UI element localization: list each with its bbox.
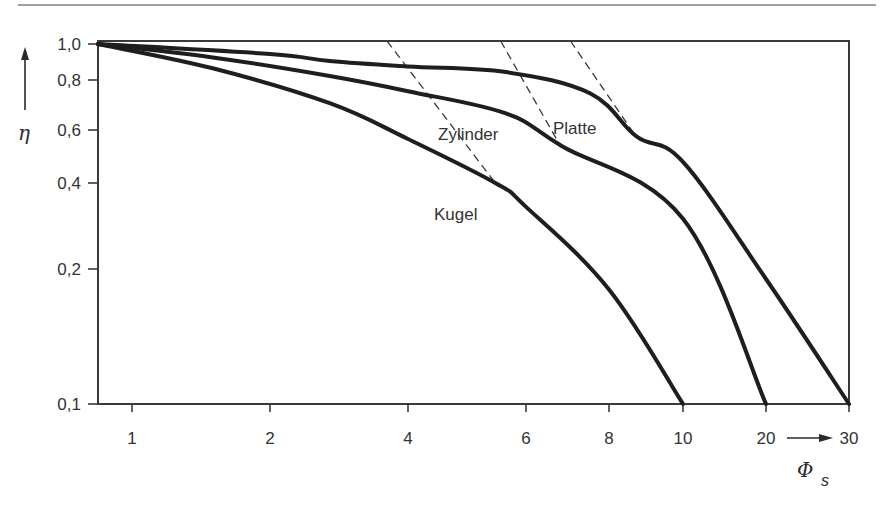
x-axis-label-subscript: s (821, 472, 829, 489)
curves (98, 44, 849, 404)
label-kugel: Kugel (434, 205, 477, 224)
y-axis-arrow-icon (21, 47, 29, 110)
curve-zylinder (98, 44, 766, 404)
y-tick-label: 1,0 (57, 35, 81, 54)
x-tick-label: 20 (757, 429, 776, 448)
y-tick-label: 0,4 (57, 174, 81, 193)
y-axis-ticks: 1,00,80,60,40,20,1 (57, 35, 98, 414)
chart: 1,00,80,60,40,20,1 12468102030 Zylinder … (0, 0, 882, 513)
x-tick-label: 10 (674, 429, 693, 448)
y-tick-label: 0,6 (57, 121, 81, 140)
label-platte: Platte (553, 119, 596, 138)
x-axis-label: Φ (797, 458, 813, 482)
x-tick-label: 8 (604, 429, 613, 448)
label-zylinder: Zylinder (438, 125, 499, 144)
y-axis-label: η (18, 121, 30, 145)
curve-platte (98, 44, 849, 404)
x-tick-label: 2 (265, 429, 274, 448)
y-tick-label: 0,2 (57, 260, 81, 279)
x-tick-label: 4 (403, 429, 412, 448)
y-tick-label: 0,1 (57, 395, 81, 414)
y-tick-label: 0,8 (57, 71, 81, 90)
x-tick-label: 30 (840, 429, 859, 448)
x-tick-label: 6 (521, 429, 530, 448)
x-axis-arrow-icon (787, 434, 833, 442)
x-tick-label: 1 (127, 429, 136, 448)
x-axis-ticks: 12468102030 (127, 404, 858, 448)
asymptote-kugel (387, 41, 495, 183)
